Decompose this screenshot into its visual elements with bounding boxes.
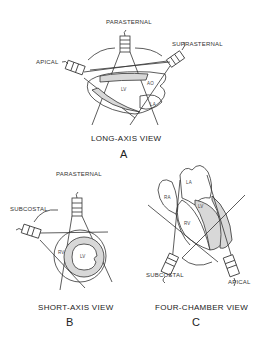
probe-label-subcostal-b: SUBCOSTAL	[10, 206, 48, 212]
probe-label-suprasternal-a: SUPRASTERNAL	[172, 41, 223, 47]
chamber-label-la-a: LA	[150, 102, 156, 107]
caption-four-chamber: FOUR-CHAMBER VIEW	[155, 303, 248, 312]
chamber-label-lv-c: LV	[198, 204, 204, 209]
chamber-label-la-c: LA	[186, 180, 192, 185]
caption-long-axis: LONG-AXIS VIEW	[91, 134, 161, 143]
panel-letter-b: B	[66, 316, 73, 328]
probe-label-parasternal-b: PARASTERNAL	[56, 171, 102, 177]
chamber-label-lv-b: LV	[80, 254, 86, 259]
panel-letter-c: C	[192, 316, 200, 328]
chamber-label-ra-c: RA	[164, 195, 171, 200]
chamber-label-ao-a: AO	[147, 81, 154, 86]
chamber-label-lv-a: LV	[121, 87, 127, 92]
probe-label-parasternal-a: PARASTERNAL	[106, 19, 152, 25]
caption-short-axis: SHORT-AXIS VIEW	[38, 303, 113, 312]
probe-label-apical-c: APICAL	[228, 279, 251, 285]
panel-letter-a: A	[120, 148, 127, 160]
probe-label-apical-a: APICAL	[36, 59, 59, 65]
probe-label-subcostal-c: SUBCOSTAL	[146, 272, 184, 278]
panel-a-drawing	[62, 30, 185, 125]
panel-c-drawing	[148, 165, 245, 286]
chamber-label-rv-c: RV	[184, 221, 191, 226]
echo-views-diagram	[0, 0, 261, 338]
chamber-label-rv-b: RV	[58, 250, 65, 255]
